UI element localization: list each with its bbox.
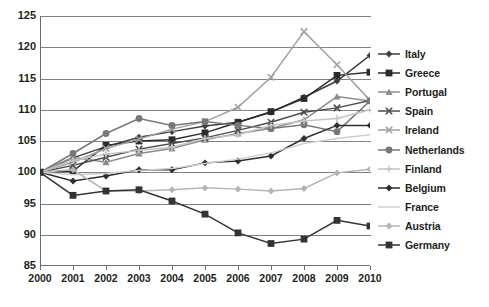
legend-label: Netherlands <box>405 144 465 156</box>
series-ireland <box>40 28 370 175</box>
data-point-diamond <box>268 188 275 195</box>
data-point-diamond <box>334 122 341 129</box>
series-austria <box>40 166 370 195</box>
legend-item-spain[interactable]: Spain <box>377 102 489 121</box>
data-point-plus <box>386 165 393 172</box>
series-line <box>40 32 370 173</box>
data-point-square <box>70 192 77 199</box>
legend-label: Belgium <box>405 182 446 194</box>
x-tick <box>172 266 173 270</box>
line-chart: 125120115110105100959085 200020012002200… <box>0 0 489 307</box>
data-point-square <box>268 108 275 115</box>
legend-item-germany[interactable]: Germany <box>377 236 489 255</box>
legend-item-belgium[interactable]: Belgium <box>377 178 489 197</box>
y-tick-label: 85 <box>2 259 36 271</box>
x-tick-label: 2008 <box>286 272 322 284</box>
x-tick-label: 2002 <box>88 272 124 284</box>
data-point-square <box>334 72 341 79</box>
legend-item-ireland[interactable]: Ireland <box>377 121 489 140</box>
x-tick-label: 2009 <box>319 272 355 284</box>
x-tick <box>139 266 140 270</box>
x-tick-label: 2010 <box>352 272 388 284</box>
x-tick-label: 2006 <box>220 272 256 284</box>
legend-item-italy[interactable]: Italy <box>377 44 489 63</box>
series-line <box>40 172 370 243</box>
x-tick-label: 2000 <box>22 272 58 284</box>
data-point-cross <box>301 28 307 34</box>
x-tick-label: 2007 <box>253 272 289 284</box>
data-point-square <box>268 240 275 247</box>
x-tick <box>238 266 239 270</box>
legend-label: Spain <box>405 105 433 117</box>
data-point-cross <box>235 104 241 110</box>
data-point-circle <box>136 115 143 122</box>
legend-item-finland[interactable]: Finland <box>377 159 489 178</box>
data-point-circle <box>386 146 393 153</box>
data-point-square <box>301 95 308 102</box>
data-point-square <box>235 229 242 236</box>
x-tick <box>106 266 107 270</box>
data-point-circle <box>70 150 77 157</box>
data-point-square <box>334 217 341 224</box>
y-tick-label: 125 <box>2 9 36 21</box>
legend-label: Portugal <box>405 86 447 98</box>
legend-item-greece[interactable]: Greece <box>377 63 489 82</box>
legend-item-netherlands[interactable]: Netherlands <box>377 140 489 159</box>
legend-label: Germany <box>405 239 450 251</box>
legend-item-austria[interactable]: Austria <box>377 217 489 236</box>
x-tick-label: 2004 <box>154 272 190 284</box>
data-point-diamond <box>334 169 341 176</box>
data-point-diamond <box>386 223 393 230</box>
legend-marker-square-icon <box>377 66 401 80</box>
y-tick-label: 90 <box>2 228 36 240</box>
data-point-diamond <box>169 166 176 173</box>
x-tick <box>271 266 272 270</box>
data-point-circle <box>235 122 242 129</box>
data-point-square <box>202 211 209 218</box>
data-point-diamond <box>367 122 370 129</box>
series-layer <box>40 16 370 266</box>
legend-marker-cross-icon <box>377 123 401 137</box>
data-point-diamond <box>301 185 308 192</box>
data-point-square <box>169 198 176 205</box>
data-point-circle <box>169 122 176 129</box>
data-point-circle <box>334 128 341 135</box>
legend-marker-triangle-icon <box>377 85 401 99</box>
data-point-diamond <box>367 166 370 173</box>
legend-item-portugal[interactable]: Portugal <box>377 82 489 101</box>
legend-marker-diamond-icon <box>377 47 401 61</box>
data-point-square <box>386 69 393 76</box>
data-point-diamond <box>386 50 393 57</box>
data-point-diamond <box>301 135 308 142</box>
data-point-cross <box>268 74 274 80</box>
y-tick-label: 120 <box>2 40 36 52</box>
legend-marker-cross-icon <box>377 104 401 118</box>
legend-label: Austria <box>405 220 440 232</box>
data-point-circle <box>103 130 110 137</box>
data-point-diamond <box>70 178 77 185</box>
legend-marker-diamond-icon <box>377 219 401 233</box>
legend-label: France <box>405 201 439 213</box>
x-tick <box>73 266 74 270</box>
data-point-plus <box>367 106 370 113</box>
data-point-square <box>386 242 393 249</box>
data-point-diamond <box>169 186 176 193</box>
data-point-square <box>136 186 143 193</box>
legend-marker-line-icon <box>377 200 401 214</box>
x-tick <box>40 266 41 270</box>
data-point-plus <box>334 115 341 122</box>
data-point-diamond <box>386 185 393 192</box>
data-point-square <box>301 236 308 243</box>
x-tick-label: 2003 <box>121 272 157 284</box>
data-point-cross <box>334 62 340 68</box>
legend-marker-plus-icon <box>377 162 401 176</box>
x-tick-label: 2001 <box>55 272 91 284</box>
x-tick <box>304 266 305 270</box>
y-tick-label: 95 <box>2 197 36 209</box>
x-tick-label: 2005 <box>187 272 223 284</box>
legend-marker-square-icon <box>377 238 401 252</box>
y-tick-label: 110 <box>2 103 36 115</box>
legend-item-france[interactable]: France <box>377 198 489 217</box>
legend-label: Italy <box>405 48 426 60</box>
data-point-diamond <box>235 186 242 193</box>
